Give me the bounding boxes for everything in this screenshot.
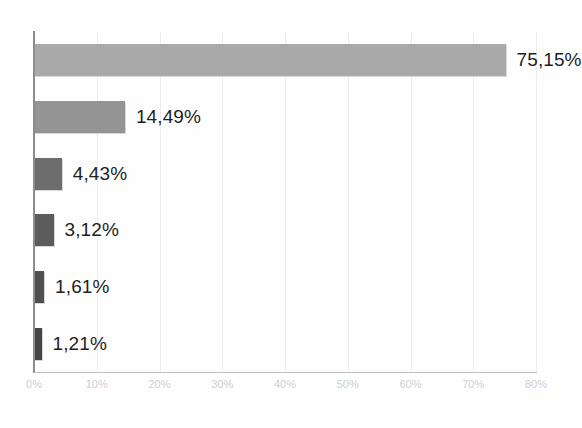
bar[interactable] — [34, 328, 42, 360]
x-tick-label: 0% — [26, 378, 42, 390]
gridline-30pct — [222, 32, 223, 372]
x-tick-label: 60% — [399, 378, 421, 390]
bar-row: 75,15% — [34, 44, 536, 76]
bar[interactable] — [34, 44, 506, 76]
bar[interactable] — [34, 101, 125, 133]
x-tick-label: 20% — [148, 378, 170, 390]
gridline-40pct — [285, 32, 286, 372]
bar-value-label: 3,12% — [65, 219, 119, 241]
gridline-80pct — [536, 32, 537, 372]
bar-row: 1,21% — [34, 328, 536, 360]
y-axis-line — [33, 31, 35, 373]
gridline-10pct — [97, 32, 98, 372]
gridline-50pct — [348, 32, 349, 372]
x-tick-label: 80% — [525, 378, 547, 390]
gridline-60pct — [411, 32, 412, 372]
bar-row: 14,49% — [34, 101, 536, 133]
x-tick-label: 10% — [86, 378, 108, 390]
x-tick-label: 40% — [274, 378, 296, 390]
plot-area: 75,15%14,49%4,43%3,12%1,61%1,21% — [34, 32, 536, 372]
bar-row: 1,61% — [34, 271, 536, 303]
x-tick-label: 70% — [462, 378, 484, 390]
gridline-70pct — [473, 32, 474, 372]
bar[interactable] — [34, 271, 44, 303]
bar-value-label: 1,61% — [55, 276, 109, 298]
bar[interactable] — [34, 214, 54, 246]
x-axis-tick-labels: 0%10%20%30%40%50%60%70%80% — [34, 378, 537, 400]
gridline-20pct — [160, 32, 161, 372]
bar-row: 3,12% — [34, 214, 536, 246]
bar-value-label: 1,21% — [53, 333, 107, 355]
bar-row: 4,43% — [34, 158, 536, 190]
x-tick-label: 50% — [337, 378, 359, 390]
bar[interactable] — [34, 158, 62, 190]
x-tick-label: 30% — [211, 378, 233, 390]
bar-value-label: 4,43% — [73, 163, 127, 185]
bar-value-label: 14,49% — [136, 106, 201, 128]
bar-value-label: 75,15% — [517, 49, 582, 71]
x-axis-line — [34, 372, 537, 373]
